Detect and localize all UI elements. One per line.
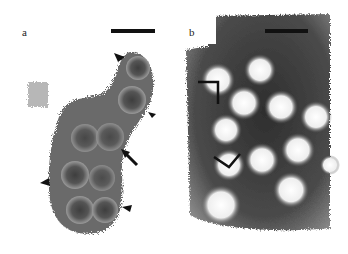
panel-a: a	[0, 0, 178, 254]
panel-a-micrograph	[0, 0, 178, 254]
panel-b-label: b	[189, 26, 195, 38]
panel-b-scale-bar	[265, 29, 308, 33]
panel-b: b	[178, 0, 348, 254]
panel-b-label-bg	[178, 0, 216, 44]
arrow-icon	[121, 149, 137, 165]
